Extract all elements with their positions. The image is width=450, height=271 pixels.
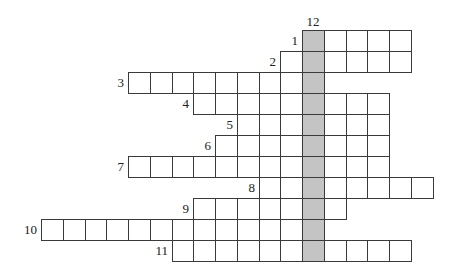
grid-cell[interactable] xyxy=(237,93,260,115)
grid-cell[interactable] xyxy=(346,30,368,52)
grid-cell[interactable] xyxy=(128,156,151,178)
grid-cell[interactable] xyxy=(280,51,303,73)
grid-cell[interactable] xyxy=(324,30,347,52)
grid-cell[interactable] xyxy=(193,93,216,115)
grid-cell[interactable] xyxy=(172,72,194,94)
shaded-cell[interactable] xyxy=(302,177,325,199)
grid-cell[interactable] xyxy=(324,156,347,178)
grid-cell[interactable] xyxy=(280,219,303,241)
grid-cell[interactable] xyxy=(215,72,238,94)
grid-cell[interactable] xyxy=(193,72,216,94)
grid-cell[interactable] xyxy=(193,219,216,241)
grid-cell[interactable] xyxy=(367,93,390,115)
grid-cell[interactable] xyxy=(237,240,260,262)
grid-cell[interactable] xyxy=(128,72,151,94)
grid-cell[interactable] xyxy=(280,177,303,199)
grid-cell[interactable] xyxy=(280,198,303,220)
grid-cell[interactable] xyxy=(215,135,238,157)
grid-cell[interactable] xyxy=(259,93,281,115)
grid-cell[interactable] xyxy=(172,219,194,241)
grid-cell[interactable] xyxy=(85,219,107,241)
grid-cell[interactable] xyxy=(172,240,194,262)
grid-cell[interactable] xyxy=(237,219,260,241)
grid-cell[interactable] xyxy=(367,240,390,262)
grid-cell[interactable] xyxy=(193,198,216,220)
grid-cell[interactable] xyxy=(128,219,151,241)
grid-cell[interactable] xyxy=(259,72,281,94)
grid-cell[interactable] xyxy=(324,51,347,73)
grid-cell[interactable] xyxy=(172,156,194,178)
grid-cell[interactable] xyxy=(367,135,390,157)
shaded-cell[interactable] xyxy=(302,240,325,262)
shaded-cell[interactable] xyxy=(302,30,325,52)
shaded-cell[interactable] xyxy=(302,156,325,178)
shaded-cell[interactable] xyxy=(302,93,325,115)
grid-cell[interactable] xyxy=(367,30,390,52)
grid-cell[interactable] xyxy=(237,198,260,220)
grid-cell[interactable] xyxy=(150,72,173,94)
grid-cell[interactable] xyxy=(346,240,368,262)
grid-cell[interactable] xyxy=(280,114,303,136)
grid-cell[interactable] xyxy=(367,51,390,73)
grid-cell[interactable] xyxy=(215,240,238,262)
grid-cell[interactable] xyxy=(215,156,238,178)
grid-cell[interactable] xyxy=(106,219,129,241)
grid-cell[interactable] xyxy=(411,177,434,199)
grid-cell[interactable] xyxy=(150,219,173,241)
grid-cell[interactable] xyxy=(324,240,347,262)
grid-cell[interactable] xyxy=(280,93,303,115)
shaded-cell[interactable] xyxy=(302,219,325,241)
clue-number: 3 xyxy=(104,76,124,89)
grid-cell[interactable] xyxy=(193,240,216,262)
grid-cell[interactable] xyxy=(346,93,368,115)
grid-cell[interactable] xyxy=(259,198,281,220)
grid-cell[interactable] xyxy=(324,114,347,136)
grid-cell[interactable] xyxy=(389,240,412,262)
grid-cell[interactable] xyxy=(346,51,368,73)
grid-cell[interactable] xyxy=(259,219,281,241)
grid-cell[interactable] xyxy=(259,135,281,157)
grid-cell[interactable] xyxy=(193,156,216,178)
grid-cell[interactable] xyxy=(389,177,412,199)
grid-cell[interactable] xyxy=(215,219,238,241)
shaded-cell[interactable] xyxy=(302,135,325,157)
grid-cell[interactable] xyxy=(324,177,347,199)
grid-cell[interactable] xyxy=(63,219,86,241)
grid-cell[interactable] xyxy=(259,114,281,136)
clue-number: 1 xyxy=(278,34,298,47)
grid-cell[interactable] xyxy=(324,93,347,115)
grid-cell[interactable] xyxy=(150,156,173,178)
grid-cell[interactable] xyxy=(324,198,347,220)
grid-cell[interactable] xyxy=(280,72,303,94)
grid-cell[interactable] xyxy=(259,156,281,178)
grid-cell[interactable] xyxy=(280,156,303,178)
grid-cell[interactable] xyxy=(215,93,238,115)
grid-cell[interactable] xyxy=(324,135,347,157)
clue-number: 2 xyxy=(256,55,276,68)
clue-number: 11 xyxy=(148,244,168,257)
shaded-cell[interactable] xyxy=(302,114,325,136)
grid-cell[interactable] xyxy=(367,177,390,199)
grid-cell[interactable] xyxy=(237,114,260,136)
grid-cell[interactable] xyxy=(367,156,390,178)
grid-cell[interactable] xyxy=(237,135,260,157)
grid-cell[interactable] xyxy=(389,30,412,52)
grid-cell[interactable] xyxy=(259,177,281,199)
grid-cell[interactable] xyxy=(259,240,281,262)
clue-number: 9 xyxy=(169,202,189,215)
grid-cell[interactable] xyxy=(346,156,368,178)
grid-cell[interactable] xyxy=(237,72,260,94)
grid-cell[interactable] xyxy=(280,135,303,157)
shaded-cell[interactable] xyxy=(302,72,325,94)
grid-cell[interactable] xyxy=(280,240,303,262)
grid-cell[interactable] xyxy=(346,177,368,199)
grid-cell[interactable] xyxy=(346,135,368,157)
grid-cell[interactable] xyxy=(367,114,390,136)
grid-cell[interactable] xyxy=(389,51,412,73)
grid-cell[interactable] xyxy=(215,198,238,220)
grid-cell[interactable] xyxy=(346,114,368,136)
grid-cell[interactable] xyxy=(41,219,64,241)
shaded-cell[interactable] xyxy=(302,51,325,73)
grid-cell[interactable] xyxy=(237,156,260,178)
shaded-cell[interactable] xyxy=(302,198,325,220)
